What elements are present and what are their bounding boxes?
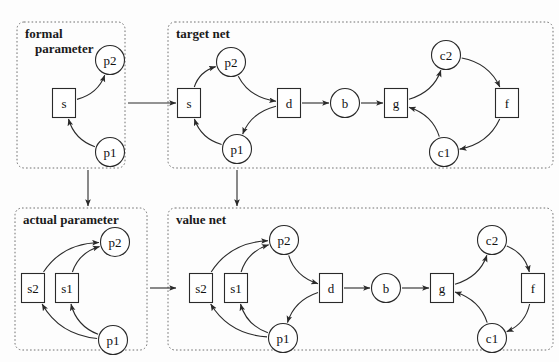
node-label-vn-b: b [383,281,390,296]
node-ap-s2[interactable]: s2 [22,274,45,303]
node-tn-d[interactable]: d [278,89,301,118]
group-label-value-net: value net [176,212,227,227]
node-tn-f[interactable]: f [496,89,519,118]
nodes-layer: sp2p1sp2dp1bgc2fc1s2s1p2p1s2s1p2dp1bgc2f… [22,41,545,355]
net-diagram: sp2p1sp2dp1bgc2fc1s2s1p2p1s2s1p2dp1bgc2f… [0,0,559,362]
node-label-tn-p2: p2 [225,55,238,70]
edge-ap-s1-to-ap-p2 [72,247,99,273]
edge-vn-g-to-vn-c2 [455,255,487,284]
node-label-vn-g: g [439,281,446,296]
node-label-tn-c1: c1 [438,145,450,160]
node-tn-p1[interactable]: p1 [223,135,252,164]
node-vn-c2[interactable]: c2 [478,226,507,255]
edge-tn-f-to-tn-c1 [460,119,500,149]
edge-vn-p2-to-vn-d [289,255,318,283]
node-vn-b[interactable]: b [372,274,401,303]
group-label-formal-parameter: formal [25,26,63,41]
node-label-vn-s1: s1 [230,281,242,296]
node-label-vn-c1: c1 [486,331,498,346]
edge-vn-d-to-vn-p1 [288,292,319,322]
edge-vn-p1-to-vn-s2 [211,304,267,337]
node-label-tn-f: f [505,96,510,111]
node-tn-g[interactable]: g [385,89,408,118]
node-ap-p1[interactable]: p1 [99,326,128,355]
node-label-vn-c2: c2 [486,233,498,248]
group-links-layer [88,103,237,288]
edge-tn-g-to-tn-c2 [409,70,441,99]
node-label-vn-p1: p1 [277,331,290,346]
node-label-vn-f: f [531,281,536,296]
node-fp-p2[interactable]: p2 [96,46,125,75]
diagram-canvas: sp2p1sp2dp1bgc2fc1s2s1p2p1s2s1p2dp1bgc2f… [0,0,559,362]
node-ap-p2[interactable]: p2 [101,228,130,257]
node-label-tn-s: s [186,96,191,111]
edge-ap-s2-to-ap-p2 [44,243,100,273]
node-vn-s2[interactable]: s2 [190,274,213,303]
node-tn-p2[interactable]: p2 [217,48,246,77]
node-label-tn-d: d [286,96,293,111]
group-label-actual-parameter: actual parameter [23,212,119,227]
node-label-tn-c2: c2 [440,48,452,63]
node-fp-p1[interactable]: p1 [96,138,125,167]
node-vn-p2[interactable]: p2 [270,226,299,255]
node-vn-f[interactable]: f [522,274,545,303]
node-label-tn-g: g [393,96,400,111]
node-vn-s1[interactable]: s1 [225,274,248,303]
node-vn-g[interactable]: g [431,274,454,303]
edge-vn-p1-to-vn-s1 [241,304,268,333]
edge-ap-p1-to-ap-s1 [71,304,98,334]
node-label-ap-p2: p2 [109,235,122,250]
edge-tn-p2-to-tn-d [238,76,276,101]
edge-fp-s-to-fp-p2 [77,75,105,99]
edge-vn-s1-to-vn-p2 [241,245,269,272]
edge-vn-f-to-vn-c1 [507,304,530,332]
node-label-ap-s2: s2 [27,281,39,296]
node-label-tn-b: b [342,96,349,111]
node-vn-d[interactable]: d [320,274,343,303]
node-label-fp-p2: p2 [104,53,117,68]
node-label-vn-p2: p2 [278,233,291,248]
node-tn-c2[interactable]: c2 [432,41,461,70]
node-tn-s[interactable]: s [178,89,201,118]
node-ap-s1[interactable]: s1 [56,274,79,303]
group-label-target-net: target net [176,26,230,41]
node-vn-c1[interactable]: c1 [478,324,507,353]
node-fp-s[interactable]: s [53,89,76,118]
edge-tn-c2-to-tn-f [462,58,500,87]
node-label-tn-p1: p1 [231,142,244,157]
node-label-vn-d: d [328,281,335,296]
group-label-formal-parameter-line2: parameter [35,41,94,56]
node-label-fp-p1: p1 [104,145,117,160]
group-labels-layer: formalparametertarget netactual paramete… [23,26,230,227]
edge-tn-s-to-tn-p2 [194,67,215,87]
node-vn-p1[interactable]: p1 [269,324,298,353]
edge-vn-s2-to-vn-p2 [211,241,268,272]
edge-tn-d-to-tn-p1 [243,106,276,134]
node-tn-b[interactable]: b [331,89,360,118]
edge-ap-p1-to-ap-s2 [42,304,97,339]
edge-tn-p1-to-tn-s [194,119,221,145]
node-label-ap-p1: p1 [107,333,120,348]
edge-vn-c2-to-vn-f [507,246,530,272]
node-label-vn-s2: s2 [195,281,207,296]
node-label-ap-s1: s1 [61,281,73,296]
edge-vn-c1-to-vn-g [455,292,487,323]
node-label-fp-s: s [61,96,66,111]
edge-tn-c1-to-tn-g [409,107,439,136]
node-tn-c1[interactable]: c1 [430,138,459,167]
edge-fp-p1-to-fp-s [69,119,95,147]
